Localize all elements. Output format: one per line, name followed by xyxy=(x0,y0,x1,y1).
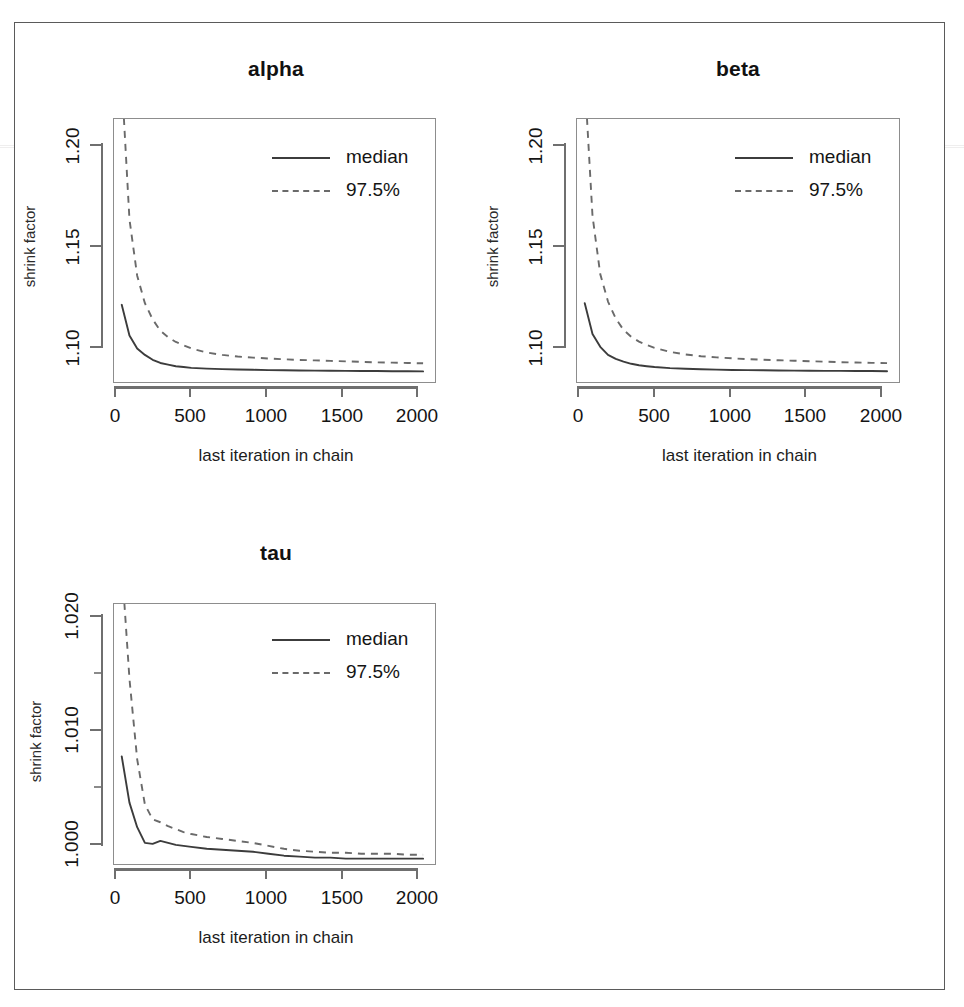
panel-tau: tau shrink factor 1.000 1.010 1.020 0 50… xyxy=(0,485,470,985)
legend-item-upper-alpha: 97.5% xyxy=(272,179,432,205)
x-tick-tau xyxy=(265,868,267,879)
legend-item-upper-beta: 97.5% xyxy=(735,179,895,205)
legend-label-median-beta: median xyxy=(809,146,871,168)
y-tick-label-alpha: 1.15 xyxy=(62,218,84,276)
x-tick-beta xyxy=(729,386,731,397)
y-tick-minor-tau xyxy=(94,672,101,674)
y-tick-label-beta: 1.20 xyxy=(525,117,547,175)
panel-beta: beta shrink factor 1.10 1.15 1.20 0 500 … xyxy=(463,0,933,490)
x-tick-beta xyxy=(653,386,655,397)
y-tick-tau xyxy=(90,843,101,845)
legend-item-median-beta: median xyxy=(735,146,895,172)
x-tick-label-beta: 0 xyxy=(548,405,608,427)
legend-alpha: median 97.5% xyxy=(272,146,432,205)
x-axis-title-tau: last iteration in chain xyxy=(115,928,437,948)
x-axis-title-beta: last iteration in chain xyxy=(578,446,901,466)
x-tick-label-tau: 0 xyxy=(85,887,145,909)
x-tick-label-tau: 1000 xyxy=(236,887,296,909)
x-tick-tau xyxy=(189,868,191,879)
line-median-alpha xyxy=(122,305,423,372)
x-tick-label-tau: 2000 xyxy=(387,887,447,909)
y-tick-beta xyxy=(553,346,564,348)
x-tick-label-beta: 1000 xyxy=(700,405,760,427)
x-tick-alpha xyxy=(416,386,418,397)
legend-swatch-97-5-tau xyxy=(272,672,330,674)
x-tick-label-beta: 2000 xyxy=(851,405,911,427)
x-tick-alpha xyxy=(341,386,343,397)
legend-label-97-5-alpha: 97.5% xyxy=(346,179,400,201)
panel-title-beta: beta xyxy=(576,57,900,81)
legend-swatch-median-beta xyxy=(735,157,793,159)
legend-item-upper-tau: 97.5% xyxy=(272,661,432,687)
y-tick-minor-tau xyxy=(94,786,101,788)
legend-label-97-5-tau: 97.5% xyxy=(346,661,400,683)
y-tick-tau xyxy=(90,615,101,617)
x-tick-alpha xyxy=(265,386,267,397)
y-tick-label-tau: 1.010 xyxy=(61,690,83,770)
x-tick-label-alpha: 1500 xyxy=(312,405,372,427)
y-axis-title-beta: shrink factor xyxy=(484,192,501,302)
y-tick-beta xyxy=(553,144,564,146)
legend-label-97-5-beta: 97.5% xyxy=(809,179,863,201)
y-tick-alpha xyxy=(90,144,101,146)
panel-title-tau: tau xyxy=(115,541,437,565)
x-tick-label-beta: 500 xyxy=(624,405,684,427)
x-tick-label-alpha: 1000 xyxy=(236,405,296,427)
x-tick-label-tau: 1500 xyxy=(312,887,372,909)
x-tick-alpha xyxy=(189,386,191,397)
y-tick-label-beta: 1.15 xyxy=(525,218,547,276)
x-tick-beta xyxy=(577,386,579,397)
x-tick-label-alpha: 0 xyxy=(85,405,145,427)
x-tick-label-tau: 500 xyxy=(160,887,220,909)
legend-swatch-97-5-beta xyxy=(735,190,793,192)
legend-item-median-tau: median xyxy=(272,628,432,654)
x-tick-label-alpha: 2000 xyxy=(387,405,447,427)
x-tick-tau xyxy=(114,868,116,879)
y-tick-tau xyxy=(90,729,101,731)
x-tick-label-beta: 1500 xyxy=(775,405,835,427)
x-tick-alpha xyxy=(114,386,116,397)
line-median-beta xyxy=(585,303,887,371)
y-tick-label-alpha: 1.20 xyxy=(62,117,84,175)
legend-label-median-tau: median xyxy=(346,628,408,650)
x-tick-tau xyxy=(416,868,418,879)
legend-item-median-alpha: median xyxy=(272,146,432,172)
x-tick-beta xyxy=(804,386,806,397)
y-tick-label-alpha: 1.10 xyxy=(62,319,84,377)
legend-beta: median 97.5% xyxy=(735,146,895,205)
y-axis-line-tau xyxy=(101,614,103,846)
y-tick-label-tau: 1.000 xyxy=(61,804,83,884)
y-tick-label-beta: 1.10 xyxy=(525,319,547,377)
y-axis-title-alpha: shrink factor xyxy=(21,192,38,302)
x-tick-label-alpha: 500 xyxy=(160,405,220,427)
y-axis-line-beta xyxy=(564,143,566,348)
y-axis-title-tau: shrink factor xyxy=(27,687,44,797)
y-tick-alpha xyxy=(90,346,101,348)
legend-swatch-97-5-alpha xyxy=(272,190,330,192)
y-tick-alpha xyxy=(90,245,101,247)
x-axis-title-alpha: last iteration in chain xyxy=(115,446,437,466)
y-tick-label-tau: 1.020 xyxy=(61,576,83,656)
x-tick-beta xyxy=(880,386,882,397)
y-axis-line-alpha xyxy=(101,143,103,348)
legend-tau: median 97.5% xyxy=(272,628,432,687)
figure-page: alpha shrink factor 1.10 1.15 1.20 0 500… xyxy=(0,0,964,1007)
legend-swatch-median-tau xyxy=(272,639,330,641)
panel-title-alpha: alpha xyxy=(115,57,437,81)
line-median-tau xyxy=(122,756,423,858)
panel-alpha: alpha shrink factor 1.10 1.15 1.20 0 500… xyxy=(0,0,470,490)
y-tick-beta xyxy=(553,245,564,247)
legend-label-median-alpha: median xyxy=(346,146,408,168)
x-tick-tau xyxy=(341,868,343,879)
legend-swatch-median-alpha xyxy=(272,157,330,159)
